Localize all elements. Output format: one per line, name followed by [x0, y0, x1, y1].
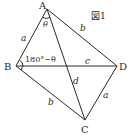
angle-label-A: θ [43, 20, 48, 29]
angle-arc-A [43, 18, 51, 19]
angle-label-B: 180°−θ [25, 55, 56, 64]
figure-title: 図1 [91, 11, 106, 21]
edge-CD [85, 66, 117, 120]
edge-label-AB: a [21, 33, 26, 43]
angle-arc-B [20, 60, 24, 66]
edge-AD [47, 9, 117, 66]
vertex-label-C: C [81, 124, 89, 135]
edge-label-CD: a [103, 90, 108, 100]
edge-label-BC: b [48, 97, 54, 107]
vertex-label-B: B [4, 61, 11, 72]
vertex-label-A: A [38, 0, 47, 11]
edge-label-AC: d [73, 76, 79, 86]
vertex-label-D: D [119, 61, 127, 72]
quadrilateral-diagram: A B C D 図1 a b c d b a θ 180°−θ [0, 0, 129, 135]
edge-label-BD: c [85, 56, 90, 66]
edge-label-AD: b [80, 23, 86, 33]
angle-arc-B-lower [22, 66, 24, 70]
edge-BC [16, 66, 85, 120]
